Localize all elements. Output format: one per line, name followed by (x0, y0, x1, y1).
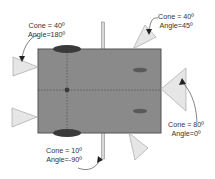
label-bottom-angle: Angle=-90º (46, 155, 82, 164)
label-bottom-cone: Cone = 10º (46, 146, 82, 155)
label-top-right-cone: Cone = 40º (158, 12, 194, 21)
label-left-top: Cone = 40º Angle=180º (28, 21, 65, 39)
label-right-angle: Angle=0º (168, 129, 204, 138)
cone-left-bottom (12, 108, 37, 127)
cone-bottom (129, 133, 148, 160)
cone-right (161, 68, 186, 111)
label-top-right: Cone = 40º Angle=45º (158, 12, 194, 30)
center-point (65, 88, 70, 93)
label-bottom: Cone = 10º Angle=-90º (46, 146, 82, 164)
cone-top-right (133, 25, 156, 49)
label-top-right-angle: Angle=45º (158, 21, 194, 30)
label-right-cone: Cone = 80º (168, 120, 204, 129)
bottom-wheel (53, 129, 81, 137)
label-left-top-cone: Cone = 40º (28, 21, 65, 30)
caster-bottom (133, 109, 147, 114)
cone-left-top (13, 57, 38, 76)
robot-body (38, 49, 161, 133)
caster-top (133, 68, 147, 73)
label-left-top-angle: Angle=180º (28, 30, 65, 39)
top-wheel (53, 45, 81, 53)
label-right: Cone = 80º Angle=0º (168, 120, 204, 138)
